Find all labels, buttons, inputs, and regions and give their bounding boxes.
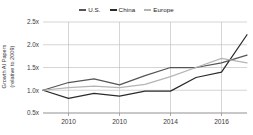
data-series-lines [43,35,247,99]
x-axis-tick-labels: 2010201020142016 [61,118,229,125]
chart-container: U.S. China Europe Growth AI Papers (rela… [0,0,253,135]
series-line-europe [43,58,247,90]
x-axis-tick-label: 2014 [163,118,178,125]
y-axis-tick-label: 0.5x [27,109,40,116]
gridlines [43,22,247,113]
x-axis-tick-label: 2010 [61,118,76,125]
y-axis-tick-labels: 0.5x1.0x1.5x2.0x2.5x [27,18,40,116]
x-axis-tick-label: 2010 [112,118,127,125]
x-axis-tick-label: 2016 [214,118,229,125]
plot-area: 0.5x1.0x1.5x2.0x2.5x 2010201020142016 [0,0,253,135]
y-axis-tick-label: 1.0x [27,87,40,94]
y-axis-tick-label: 2.0x [27,41,40,48]
y-axis-tick-label: 2.5x [27,18,40,25]
x-axis-tick-marks [69,113,222,116]
y-axis-tick-label: 1.5x [27,64,40,71]
series-line-china [43,35,247,99]
